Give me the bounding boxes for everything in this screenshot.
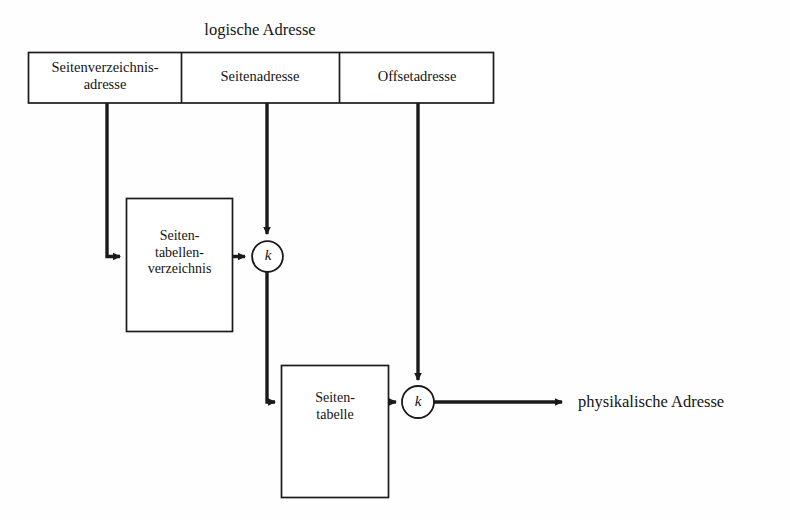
address-field-page-label: Seitenadresse — [183, 68, 337, 85]
connector-dir-address — [107, 103, 120, 257]
address-field-directory-label: Seitenverzeichnis- adresse — [30, 59, 180, 93]
page-table-block-rect — [282, 366, 389, 498]
diagram-title: logische Adresse — [150, 20, 370, 39]
address-translation-diagram: logische Adresse Seitenverzeichnis- adre… — [0, 0, 790, 520]
address-field-offset-label: Offsetadresse — [341, 68, 493, 85]
page-table-block-label: Seiten- tabelle — [283, 390, 387, 423]
junction-1-label: k — [253, 247, 283, 264]
physical-address-output-label: physikalische Adresse — [578, 392, 788, 411]
junction-2-label: k — [403, 393, 433, 410]
connector-junction1-to-table — [267, 272, 275, 402]
page-directory-block-label: Seiten- tabellen- verzeichnis — [128, 228, 231, 278]
